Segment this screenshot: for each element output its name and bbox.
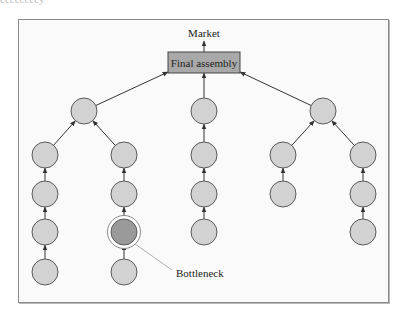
process-node [111, 181, 137, 207]
edge-arrow [93, 121, 116, 146]
bottleneck-leader-line [135, 244, 172, 270]
market-label: Market [188, 27, 220, 39]
edge-arrow [54, 121, 76, 146]
process-node [350, 219, 376, 245]
process-node [32, 181, 58, 207]
process-node [32, 259, 58, 285]
supply-chain-diagram: Market Final assembly Bottleneck [0, 0, 407, 315]
process-node [111, 142, 137, 168]
bottleneck-label: Bottleneck [176, 267, 224, 279]
process-node [270, 142, 296, 168]
process-node [270, 181, 296, 207]
process-node [191, 181, 217, 207]
process-node [32, 219, 58, 245]
edge-arrow [292, 121, 315, 146]
process-node [111, 259, 137, 285]
process-node [350, 181, 376, 207]
process-node [32, 142, 58, 168]
edge-arrow [240, 72, 311, 106]
final-assembly-label: Final assembly [171, 57, 238, 69]
bottleneck-node [111, 219, 137, 245]
edge-arrow [96, 72, 168, 106]
process-node [191, 219, 217, 245]
process-node [191, 98, 217, 124]
process-node [191, 142, 217, 168]
process-node [350, 142, 376, 168]
edge-arrow [332, 121, 355, 146]
process-node [71, 98, 97, 124]
process-node [310, 98, 336, 124]
